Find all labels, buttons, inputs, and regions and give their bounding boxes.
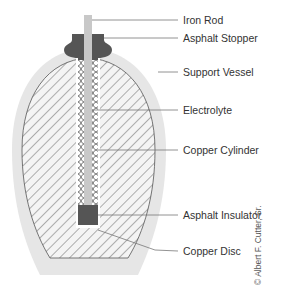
label-copper-disc: Copper Disc bbox=[183, 245, 241, 257]
label-asphalt-stopper: Asphalt Stopper bbox=[183, 32, 258, 44]
label-asphalt-insulator: Asphalt Insulator bbox=[183, 209, 261, 221]
label-electrolyte: Electrolyte bbox=[183, 104, 232, 116]
label-copper-cylinder: Copper Cylinder bbox=[183, 144, 259, 156]
copper-cylinder-left-wall bbox=[78, 60, 84, 206]
photo-credit: © Albert F. Cutter, Sr. bbox=[253, 206, 263, 286]
asphalt-insulator-shape bbox=[78, 205, 98, 225]
label-iron-rod: Iron Rod bbox=[183, 14, 223, 26]
label-support-vessel: Support Vessel bbox=[183, 66, 254, 78]
copper-cylinder-right-wall bbox=[92, 60, 98, 206]
iron-rod-shape bbox=[84, 15, 92, 207]
